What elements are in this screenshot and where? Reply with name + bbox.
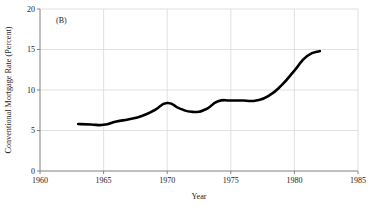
y-tick-label: 20 — [27, 5, 35, 14]
x-tick-label: 1980 — [286, 176, 302, 185]
x-tick-label: 1970 — [159, 176, 175, 185]
line-chart: 05101520 196019651970197519801985 (B) Ye… — [0, 0, 387, 207]
x-tick-label: 1960 — [32, 176, 48, 185]
y-axis-title: Conventional Mortgage Rate (Percent) — [4, 26, 13, 153]
x-tick-label: 1965 — [96, 176, 112, 185]
y-tick-label: 0 — [31, 167, 35, 176]
y-tick-label: 5 — [31, 126, 35, 135]
x-axis-title: Year — [191, 192, 206, 201]
x-tick-label: 1975 — [223, 176, 239, 185]
panel-label: (B) — [56, 16, 67, 25]
chart-background — [0, 0, 387, 207]
y-tick-label: 15 — [27, 45, 35, 54]
chart-figure: 05101520 196019651970197519801985 (B) Ye… — [0, 0, 387, 207]
y-tick-label: 10 — [27, 86, 35, 95]
x-tick-label: 1985 — [350, 176, 366, 185]
